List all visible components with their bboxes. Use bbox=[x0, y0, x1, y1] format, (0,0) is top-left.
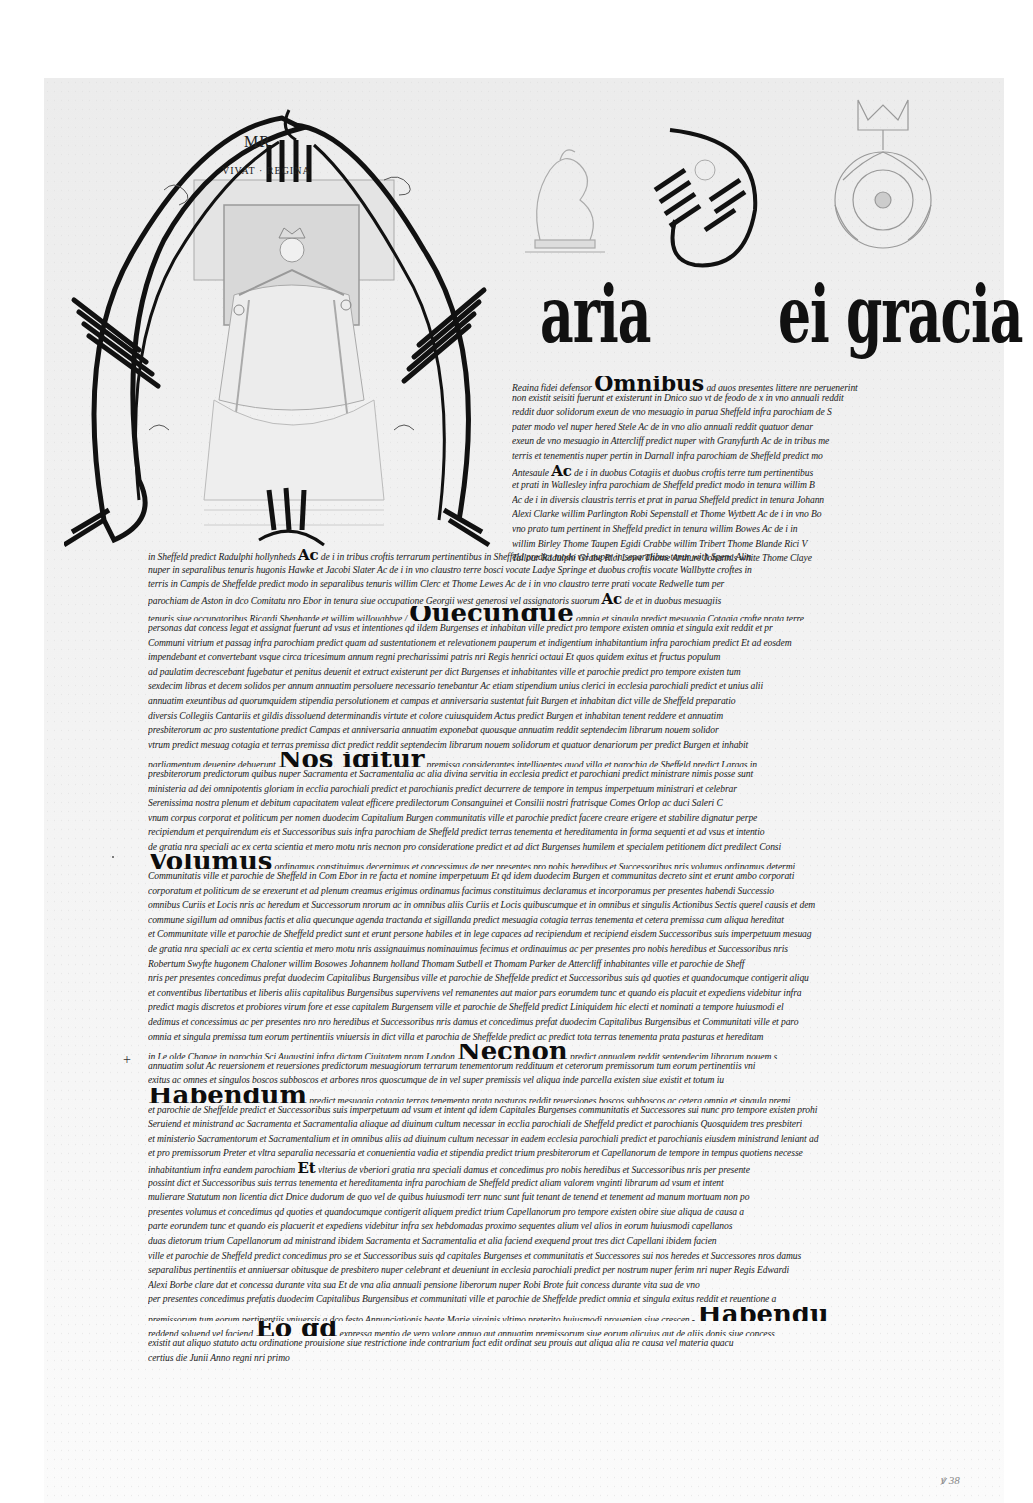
line-text: predict annualem reddit septendecim libr… bbox=[568, 1051, 778, 1059]
line-text: in Sheffeld predict Radulphi hollynheds bbox=[148, 551, 298, 562]
line-text: recipiendum et perquirendum eis et Succe… bbox=[148, 826, 764, 837]
charter-text-main-block: in Sheffeld predict Radulphi hollynheds … bbox=[148, 548, 990, 1365]
text-line: Communi vitrium et passag infra parochia… bbox=[148, 636, 990, 651]
text-line: nuper in separalibus tenuris hugonis Haw… bbox=[148, 563, 990, 578]
display-keyword: Ac bbox=[298, 548, 319, 563]
text-line: pater modo vel nuper hered Stele Ac de i… bbox=[512, 420, 990, 435]
text-line: Seruiend et ministrand ac Sacramenta et … bbox=[148, 1117, 990, 1132]
line-text: reddend soluend vel faciend bbox=[148, 1328, 255, 1336]
text-line: diversis Collegiis Cantariis et gildis d… bbox=[148, 709, 990, 724]
line-text: tenuris siue occupatoribus Ricardi Sheph… bbox=[148, 613, 409, 621]
line-text: corporatum et politicum de se erexerunt … bbox=[148, 885, 774, 896]
margin-dot bbox=[112, 856, 114, 858]
line-text: parte eorundem tunc et quando eis placue… bbox=[148, 1220, 732, 1231]
line-text: impendebant et convertebant vsque circa … bbox=[148, 651, 720, 662]
line-text: vnum corpus corporat et politicum per no… bbox=[148, 812, 757, 823]
text-line: terris et tenementis nuper pertin in Dar… bbox=[512, 449, 990, 464]
text-line: dedimus et concessimus ac per presentes … bbox=[148, 1015, 990, 1030]
text-line: de gratia nra speciali ac ex certa scien… bbox=[148, 840, 990, 855]
line-text: Ac de i in diversis claustris terris et … bbox=[512, 494, 824, 505]
line-text: annuatim solut Ac reuersionem et reuersi… bbox=[148, 1060, 755, 1071]
line-text: exitus ac omnes et singulos boscos subbo… bbox=[148, 1074, 724, 1085]
line-text: et ministerio Sacramentorum et Sacrament… bbox=[148, 1133, 818, 1144]
display-keyword: Quecunque bbox=[409, 606, 573, 620]
line-text: terris in Campis de Sheffelde predict mo… bbox=[148, 578, 724, 589]
line-text: de i in duobus Cotagiis et duobus crofti… bbox=[572, 467, 813, 478]
line-text: premissa considerantes intelligentes quo… bbox=[424, 759, 757, 767]
text-line: Volumus ordinamus constituimus decernimu… bbox=[148, 854, 990, 869]
display-keyword: Habendu bbox=[697, 1307, 828, 1321]
text-line: nris per presentes concedimus prefat duo… bbox=[148, 971, 990, 986]
line-text: separalibus pertinentiis et anniuersar o… bbox=[148, 1264, 789, 1275]
line-text: premissorum tum eorum pertinentiis vniue… bbox=[148, 1314, 697, 1322]
line-text: inhabitantium infra eandem parochiam bbox=[148, 1164, 297, 1175]
text-line: ad paulatim decrescebant fugebatur et pe… bbox=[148, 665, 990, 680]
text-line: sexdecim libras et decem solidos per ann… bbox=[148, 679, 990, 694]
text-line: reddend soluend vel faciend Eo qd expres… bbox=[148, 1321, 990, 1336]
illuminated-initial-d bbox=[650, 120, 770, 270]
text-line: per presentes concedimus prefatis duodec… bbox=[148, 1292, 990, 1307]
line-text: Antesaule bbox=[512, 467, 551, 478]
line-text: Alexi Borbe clare dat et concessa durant… bbox=[148, 1279, 700, 1290]
text-line: reddit duor solidorum exeun de vno mesua… bbox=[512, 405, 990, 420]
text-line: presentes volumus et concedimus qd quoti… bbox=[148, 1205, 990, 1220]
line-text: Communitatis ville et parochie de Sheffe… bbox=[148, 870, 794, 881]
line-text: sexdecim libras et decem solidos per ann… bbox=[148, 680, 763, 691]
lion-crest-icon bbox=[510, 120, 620, 270]
title-word-aria: aria bbox=[540, 268, 651, 360]
line-text: certius die Junii Anno regni nri primo bbox=[148, 1352, 290, 1363]
text-line: possint dict et Successoribus suis terra… bbox=[148, 1176, 990, 1191]
line-text: mulierare Statutum non licentia dict Dni… bbox=[148, 1191, 749, 1202]
text-line: et ministerio Sacramentorum et Sacrament… bbox=[148, 1132, 990, 1147]
text-line: Antesaule Ac de i in duobus Cotagiis et … bbox=[512, 464, 990, 479]
line-text: pater modo vel nuper hered Stele Ac de i… bbox=[512, 421, 813, 432]
text-line: vnum corpus corporat et politicum per no… bbox=[148, 811, 990, 826]
text-line: recipiendum et perquirendum eis et Succe… bbox=[148, 825, 990, 840]
text-line: non existit seisiti fuerunt et existerun… bbox=[512, 391, 990, 406]
charter-text-upper-block: Regina fidei defensor Omnibus ad quos pr… bbox=[512, 376, 990, 566]
line-text: et prati in Wallesley infra parochiam de… bbox=[512, 479, 815, 490]
line-text: terris et tenementis nuper pertin in Dar… bbox=[512, 450, 823, 461]
display-keyword: Et bbox=[297, 1161, 315, 1176]
line-text: omnia et singula predict mesuagia Cotagi… bbox=[574, 613, 804, 621]
text-line: Regina fidei defensor Omnibus ad quos pr… bbox=[512, 376, 990, 391]
text-line: presbiterorum predictorum quibus nuper S… bbox=[148, 767, 990, 782]
text-line: Serenissima nostra plenum et debitum cap… bbox=[148, 796, 990, 811]
line-text: commune sigillum ad omnibus factis et al… bbox=[148, 914, 784, 925]
line-text: ad paulatim decrescebant fugebatur et pe… bbox=[148, 666, 741, 677]
text-line: exitus ac omnes et singulos boscos subbo… bbox=[148, 1073, 990, 1088]
text-line: predict magis discretos et probiores vir… bbox=[148, 1000, 990, 1015]
line-text: dedimus et concessimus ac per presentes … bbox=[148, 1016, 798, 1027]
margin-cross-mark: + bbox=[123, 1052, 131, 1068]
motto-vivat-regina: VIVAT · REGINA bbox=[222, 165, 311, 176]
text-line: et pro premissorum Preter et vltra separ… bbox=[148, 1146, 990, 1161]
text-line: exeun de vno mesuagio in Attercliff pred… bbox=[512, 434, 990, 449]
line-text: Regina fidei defensor bbox=[512, 382, 594, 391]
line-text: de et in duobus mesuagiis bbox=[622, 595, 721, 606]
line-text: de gratia nra speciali ac ex certa scien… bbox=[148, 841, 781, 852]
text-line: et conventibus libertatibus et liberis a… bbox=[148, 986, 990, 1001]
line-text: expressa mentio de vero valore annuo aut… bbox=[337, 1328, 775, 1336]
text-line: presbiterorum ac pro sustentatione predi… bbox=[148, 723, 990, 738]
text-line: parte eorundem tunc et quando eis placue… bbox=[148, 1219, 990, 1234]
line-text: parliamentum deuenire debuerunt bbox=[148, 759, 278, 767]
text-line: Alexi Borbe clare dat et concessa durant… bbox=[148, 1278, 990, 1293]
display-keyword: Nos igitur bbox=[278, 752, 424, 766]
text-line: et parochie de Sheffelde predict et Succ… bbox=[148, 1103, 990, 1118]
line-text: existit aut aliquo statuto actu ordinati… bbox=[148, 1337, 733, 1348]
text-line: existit aut aliquo statuto actu ordinati… bbox=[148, 1336, 990, 1351]
line-text: willim Birley Thome Taupen Egidi Crabbe … bbox=[512, 538, 807, 549]
text-line: mulierare Statutum non licentia dict Dni… bbox=[148, 1190, 990, 1205]
display-keyword: Habendum bbox=[148, 1088, 307, 1102]
line-text: ville et parochie de Sheffeld predict co… bbox=[148, 1250, 801, 1261]
line-text: Seruiend et ministrand ac Sacramenta et … bbox=[148, 1118, 802, 1129]
line-text: Robertum Swyfte hugonem Chaloner willim … bbox=[148, 958, 744, 969]
line-text: duas dietorum trium Capellanorum ad mini… bbox=[148, 1235, 717, 1246]
line-text: et conventibus libertatibus et liberis a… bbox=[148, 987, 802, 998]
text-line: annuatim solut Ac reuersionem et reuersi… bbox=[148, 1059, 990, 1074]
text-line: Robertum Swyfte hugonem Chaloner willim … bbox=[148, 957, 990, 972]
line-text: Serenissima nostra plenum et debitum cap… bbox=[148, 797, 723, 808]
line-text: predict magis discretos et probiores vir… bbox=[148, 1001, 784, 1012]
text-line: ministeria ad dei omnipotentis gloriam i… bbox=[148, 782, 990, 797]
line-text: exeun de vno mesuagio in Attercliff pred… bbox=[512, 435, 829, 446]
